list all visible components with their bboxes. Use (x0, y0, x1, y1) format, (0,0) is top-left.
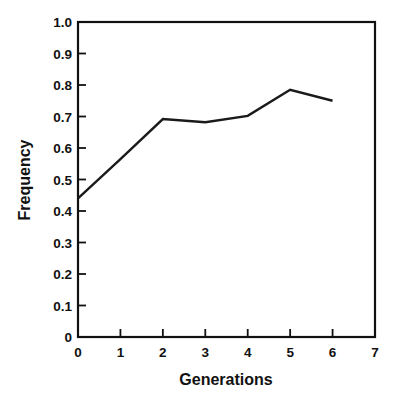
y-tick-label: 0.7 (53, 110, 72, 125)
x-tick-label: 0 (74, 345, 82, 360)
y-tick-label: 0.5 (53, 173, 72, 188)
data-series-line (78, 90, 333, 199)
x-axis-title: Generations (179, 371, 272, 388)
x-tick-label: 4 (244, 345, 252, 360)
x-tick-label: 6 (329, 345, 337, 360)
chart-canvas: 0 0.1 0.2 0.3 0.4 0.5 0.6 0.7 0.8 0.9 1.… (0, 0, 409, 406)
x-tick-label: 5 (286, 345, 294, 360)
x-tick-label: 1 (117, 345, 125, 360)
y-tick-label: 0.9 (53, 47, 72, 62)
y-tick-label: 0.1 (53, 299, 72, 314)
y-axis-tick-labels: 0 0.1 0.2 0.3 0.4 0.5 0.6 0.7 0.8 0.9 1.… (53, 15, 72, 345)
y-tick-label: 1.0 (53, 15, 72, 30)
x-axis-ticks (78, 329, 375, 337)
y-tick-label: 0.4 (53, 204, 72, 219)
x-tick-label: 2 (159, 345, 167, 360)
x-axis-tick-labels: 0 1 2 3 4 5 6 7 (74, 345, 379, 360)
y-tick-label: 0.8 (53, 78, 72, 93)
y-tick-label: 0.3 (53, 236, 72, 251)
y-tick-label: 0.6 (53, 141, 72, 156)
plot-frame (78, 22, 375, 337)
y-axis-ticks (78, 22, 86, 337)
line-chart: 0 0.1 0.2 0.3 0.4 0.5 0.6 0.7 0.8 0.9 1.… (0, 0, 409, 406)
x-tick-label: 7 (371, 345, 379, 360)
y-tick-label: 0 (64, 330, 72, 345)
y-tick-label: 0.2 (53, 267, 72, 282)
x-tick-label: 3 (202, 345, 210, 360)
y-axis-title: Frequency (16, 139, 33, 220)
